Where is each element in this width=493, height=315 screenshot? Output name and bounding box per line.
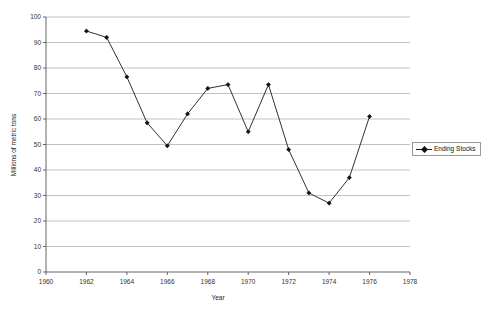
x-tick-label: 1972 xyxy=(281,278,296,285)
x-axis-ticks xyxy=(46,272,410,275)
y-tick-label: 70 xyxy=(34,90,42,97)
data-point-marker xyxy=(246,130,250,134)
legend-item-label: Ending Stocks xyxy=(434,145,476,153)
y-tick-label: 10 xyxy=(34,243,42,250)
y-tick-label: 50 xyxy=(34,141,42,148)
data-point-marker xyxy=(125,75,129,79)
data-line xyxy=(86,31,369,203)
x-axis-tick-labels: 1960196219641966196819701972197419761978 xyxy=(39,278,418,285)
x-tick-label: 1978 xyxy=(403,278,418,285)
series-markers-ending-stocks xyxy=(84,29,371,205)
data-point-marker xyxy=(367,114,371,118)
data-point-marker xyxy=(84,29,88,33)
y-tick-label: 30 xyxy=(34,192,42,199)
data-point-marker xyxy=(266,82,270,86)
y-tick-label: 20 xyxy=(34,217,42,224)
x-tick-label: 1970 xyxy=(241,278,256,285)
data-point-marker xyxy=(287,148,291,152)
x-tick-label: 1974 xyxy=(322,278,337,285)
x-tick-label: 1960 xyxy=(39,278,54,285)
diamond-marker-icon xyxy=(416,146,432,152)
y-tick-label: 90 xyxy=(34,39,42,46)
y-axis-title: Millions of metric tons xyxy=(10,113,17,176)
y-tick-label: 0 xyxy=(37,268,41,275)
data-point-marker xyxy=(105,35,109,39)
y-axis-tick-labels: 0102030405060708090100 xyxy=(30,13,41,275)
y-tick-label: 100 xyxy=(30,13,41,20)
y-tick-label: 80 xyxy=(34,64,42,71)
x-tick-label: 1964 xyxy=(120,278,135,285)
x-axis-title: Year xyxy=(211,294,225,301)
gridlines xyxy=(46,17,410,247)
x-tick-label: 1966 xyxy=(160,278,175,285)
x-tick-label: 1976 xyxy=(362,278,377,285)
data-point-marker xyxy=(307,191,311,195)
line-chart: 0102030405060708090100 19601962196419661… xyxy=(0,0,493,315)
x-tick-label: 1968 xyxy=(201,278,216,285)
data-point-marker xyxy=(226,82,230,86)
y-tick-label: 60 xyxy=(34,115,42,122)
x-tick-label: 1962 xyxy=(79,278,94,285)
series-line-ending-stocks xyxy=(86,31,369,203)
chart-canvas: 0102030405060708090100 19601962196419661… xyxy=(0,0,493,315)
y-tick-label: 40 xyxy=(34,166,42,173)
legend: Ending Stocks xyxy=(412,142,481,156)
